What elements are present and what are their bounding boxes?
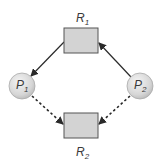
claim-edge-p1-to-r2 — [32, 96, 63, 124]
process-p2: P2 — [127, 73, 153, 99]
request-edge-p2-to-r1 — [99, 43, 131, 77]
resource-r2: R2 — [64, 113, 98, 161]
claim-edge-p2-to-r2 — [99, 96, 130, 124]
edges — [31, 42, 131, 124]
resource-box — [64, 28, 98, 53]
resource-box — [64, 113, 98, 138]
assignment-edge-r1-to-p1 — [31, 42, 64, 76]
resource-label-r1: R1 — [76, 11, 89, 27]
process-p1: P1 — [9, 73, 35, 99]
resource-label-r2: R2 — [76, 145, 90, 161]
processes: P1P2 — [9, 73, 153, 99]
resource-r1: R1 — [64, 11, 98, 53]
resources: R1R2 — [64, 11, 98, 161]
resource-allocation-graph: R1R2 P1P2 — [0, 0, 162, 167]
